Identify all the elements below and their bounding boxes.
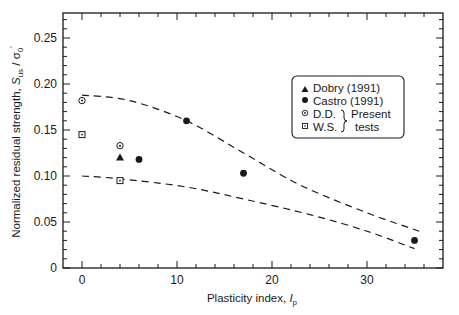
y-tick-label: 0.15 (34, 123, 58, 137)
plot-frame (63, 13, 443, 268)
y-tick-label: 0.20 (34, 77, 58, 91)
residual-strength-chart: 010203000.050.100.150.200.25 Dobry (1991… (0, 0, 459, 315)
axis-ticks (63, 13, 443, 268)
castro-circle-marker (183, 117, 190, 124)
legend-castro: Castro (1991) (313, 95, 383, 107)
legend-filled-circle-icon (302, 97, 308, 103)
x-axis-label: Plasticity index, Ip (207, 292, 298, 307)
legend-open-circle-dot (304, 112, 306, 114)
legend-dobry: Dobry (1991) (313, 82, 380, 94)
x-tick-label: 10 (170, 273, 184, 287)
legend-ws: W.S. (313, 121, 337, 133)
plot-area-border (63, 13, 443, 268)
lower-bound-dashed-curve (82, 176, 415, 249)
castro-circle-marker (411, 237, 418, 244)
castro-circle-marker (136, 156, 143, 163)
y-tick-label: 0.10 (34, 169, 58, 183)
x-tick-label: 0 (79, 273, 86, 287)
legend: Dobry (1991) Castro (1991) D.D. W.S. Pre… (292, 76, 404, 138)
x-tick-label: 30 (360, 273, 374, 287)
y-tick-label: 0.05 (34, 215, 58, 229)
legend-open-square-dot (304, 125, 306, 127)
y-tick-label: 0 (50, 261, 57, 275)
legend-group-label-tests: tests (355, 121, 380, 133)
dobry-triangle-marker (116, 154, 124, 161)
castro-circle-marker (240, 170, 247, 177)
y-tick-label: 0.25 (34, 31, 58, 45)
legend-group-label-present: Present (351, 108, 391, 120)
tick-labels: 010203000.050.100.150.200.25 (34, 31, 374, 287)
x-tick-label: 20 (265, 273, 279, 287)
y-axis-label: Normalized residual strength, Sus / σ0′ (8, 46, 25, 238)
legend-dd: D.D. (313, 108, 336, 120)
